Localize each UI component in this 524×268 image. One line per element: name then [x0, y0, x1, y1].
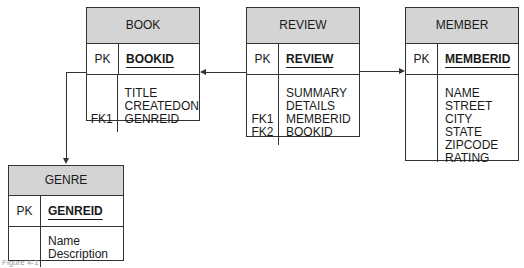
- relationship-review-member-line: [360, 71, 400, 72]
- relationship-book-genre-line-v: [66, 72, 67, 159]
- fk-labels: [406, 75, 438, 162]
- arrowhead-icon: [200, 69, 206, 75]
- attribute: BOOKID: [286, 126, 359, 139]
- entity-book-title: BOOK: [87, 8, 199, 44]
- attribute: Description: [48, 248, 123, 261]
- relationship-review-book-line: [202, 72, 246, 73]
- arrowhead-icon: [399, 68, 405, 74]
- entity-review: REVIEW PK REVIEW FK1 FK2 SUMMARY DETAILS…: [246, 7, 360, 137]
- entity-genre: GENRE PK GENREID Name Description: [8, 165, 124, 261]
- entity-review-pk-row: PK REVIEW: [247, 44, 359, 75]
- attribute-list: SUMMARY DETAILS MEMBERID BOOKID: [279, 75, 359, 145]
- relationship-book-genre-line-h: [66, 72, 86, 73]
- entity-book: BOOK PK BOOKID FK1 TITLE CREATEDON GENRE…: [86, 7, 200, 121]
- fk-labels: FK1 FK2: [247, 75, 279, 145]
- entity-review-attr-row: FK1 FK2 SUMMARY DETAILS MEMBERID BOOKID: [247, 75, 359, 145]
- attribute-list: TITLE CREATEDON GENREID: [118, 75, 199, 132]
- entity-book-pk-row: PK BOOKID: [87, 44, 199, 75]
- pk-field: REVIEW: [286, 52, 333, 66]
- pk-field: BOOKID: [126, 52, 174, 66]
- pk-label: PK: [406, 44, 438, 74]
- pk-field: MEMBERID: [445, 52, 510, 66]
- pk-label: PK: [9, 196, 41, 226]
- entity-member-pk-row: PK MEMBERID: [406, 44, 518, 75]
- entity-genre-pk-row: PK GENREID: [9, 196, 123, 227]
- attribute-list: NAME STREET CITY STATE ZIPCODE RATING: [438, 75, 518, 162]
- entity-genre-title: GENRE: [9, 166, 123, 196]
- fk-label: FK2: [247, 126, 278, 139]
- entity-member: MEMBER PK MEMBERID NAME STREET CITY STAT…: [405, 7, 519, 161]
- attribute-list: Name Description: [41, 227, 123, 267]
- fk-label: FK1: [87, 113, 117, 126]
- pk-label: PK: [247, 44, 279, 74]
- figure-caption: Figure 4-1: [2, 258, 38, 267]
- entity-member-title: MEMBER: [406, 8, 518, 44]
- entity-review-title: REVIEW: [247, 8, 359, 44]
- pk-field: GENREID: [48, 204, 103, 218]
- entity-book-attr-row: FK1 TITLE CREATEDON GENREID: [87, 75, 199, 132]
- pk-label: PK: [87, 44, 119, 74]
- entity-member-attr-row: NAME STREET CITY STATE ZIPCODE RATING: [406, 75, 518, 162]
- arrowhead-icon: [63, 158, 69, 164]
- attribute: GENREID: [125, 113, 199, 126]
- fk-labels: FK1: [87, 75, 118, 132]
- attribute: RATING: [445, 152, 518, 165]
